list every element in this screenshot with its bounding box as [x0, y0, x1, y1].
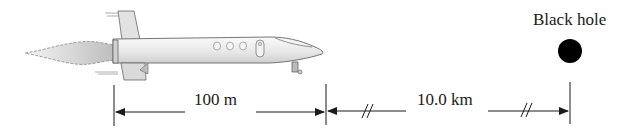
- windows: [214, 42, 247, 50]
- black-hole: [558, 39, 582, 63]
- landing-gear: [292, 62, 298, 72]
- dimension-lines: [114, 82, 570, 126]
- black-hole-label: Black hole: [533, 11, 606, 28]
- exhaust-flame: [25, 41, 115, 64]
- rocket: [25, 11, 323, 80]
- distance-label: 10.0 km: [413, 91, 477, 108]
- bottom-fin: [121, 63, 146, 80]
- rocket-length-label: 100 m: [190, 91, 241, 108]
- top-fin: [118, 11, 140, 40]
- break-mark-2: [521, 103, 532, 117]
